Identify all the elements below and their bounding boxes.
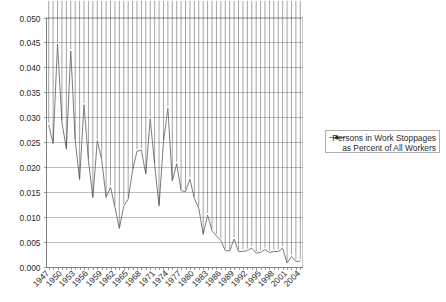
y-axis-tick-label: 0.005: [20, 238, 41, 248]
y-axis-tick-label: 0.035: [20, 88, 41, 98]
chart-figure: 0.0000.0050.0100.0150.0200.0250.0300.035…: [0, 0, 446, 302]
chart-legend: Persons in Work Stoppages as Percent of …: [326, 131, 440, 153]
x-axis-labels-group: 1947195019531956195919621965196819711974…: [31, 268, 302, 288]
y-axis-tick-label: 0.045: [20, 38, 41, 48]
y-axis-tick-label: 0.050: [20, 14, 41, 24]
legend-label-line-2: as Percent of All Workers: [342, 143, 436, 153]
legend-label-line-1: Persons in Work Stoppages: [332, 133, 436, 143]
x-axis-tick-label: 2004: [282, 268, 302, 288]
y-axis-tick-label: 0.015: [20, 188, 41, 198]
y-axis-tick-label: 0.000: [20, 263, 41, 273]
line-chart: 0.0000.0050.0100.0150.0200.0250.0300.035…: [0, 0, 446, 302]
y-axis-tick-label: 0.030: [20, 113, 41, 123]
y-axis-labels-group: 0.0000.0050.0100.0150.0200.0250.0300.035…: [20, 14, 41, 273]
y-axis-tick-label: 0.020: [20, 163, 41, 173]
y-axis-tick-label: 0.025: [20, 138, 41, 148]
y-axis-tick-label: 0.040: [20, 63, 41, 73]
y-axis-tick-label: 0.010: [20, 213, 41, 223]
